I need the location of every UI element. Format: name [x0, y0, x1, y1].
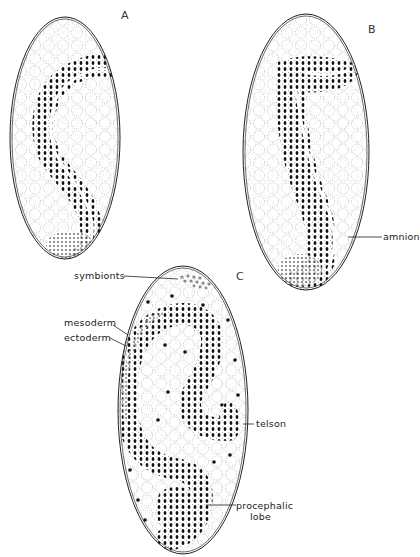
label-mesoderm: mesoderm: [64, 318, 116, 328]
label-amnion: amnion: [383, 232, 420, 242]
label-ectoderm: ectoderm: [64, 333, 111, 343]
label-lobe: lobe: [250, 512, 271, 522]
label-symbionts: symbionts: [74, 271, 125, 281]
panel-b-egg: [230, 0, 390, 300]
panel-label-a: A: [121, 9, 129, 22]
label-telson: telson: [256, 419, 286, 429]
panel-c-egg: [110, 260, 260, 557]
ectoderm-leader-line: [110, 338, 126, 346]
panel-label-b: B: [368, 23, 376, 36]
panel-a-egg: [0, 0, 140, 270]
panel-label-c: C: [236, 270, 244, 283]
label-procephalic: procephalic: [236, 501, 293, 511]
